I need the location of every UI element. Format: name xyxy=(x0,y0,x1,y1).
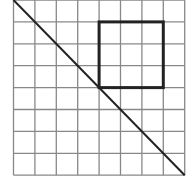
grid-diagram xyxy=(0,0,194,187)
bold-square xyxy=(99,22,163,88)
